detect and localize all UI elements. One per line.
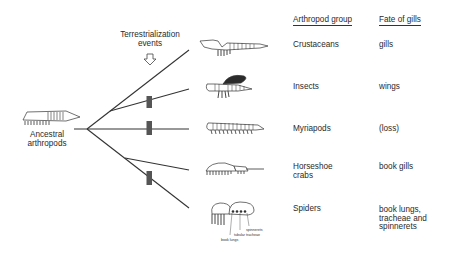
fate-insects: wings [379, 83, 400, 92]
label-book-lungs: book lungs [221, 236, 238, 245]
ancestral-arthropod-icon [23, 111, 80, 125]
terrestrialization-label: Terrestrialization events [113, 31, 187, 48]
fate-spiders-line-3: spinnerets [379, 223, 427, 232]
group-crustaceans: Crustaceans [293, 41, 339, 50]
event-label-line-2: events [113, 40, 187, 49]
branch-spiders [87, 129, 189, 208]
fate-crustaceans: gills [379, 41, 393, 50]
root-label-line-2: arthropods [17, 140, 77, 149]
horseshoe-crab-icon [206, 163, 264, 175]
fate-spiders: book lungs, tracheae and spinnerets [379, 206, 427, 232]
root-label: Ancestral arthropods [17, 131, 77, 148]
fate-horseshoe-crabs: book gills [379, 163, 413, 172]
branch-horseshoe-crabs [125, 158, 189, 170]
insect-icon [206, 75, 252, 98]
header-arthropod-group: Arthropod group [293, 15, 352, 26]
bar-insects [147, 96, 153, 108]
header-fate-of-gills: Fate of gills [379, 15, 421, 26]
group-insects: Insects [293, 83, 319, 92]
fate-myriapods: (loss) [379, 125, 399, 134]
bar-myriapods [147, 121, 153, 135]
bar-spiders [147, 171, 153, 185]
crustacean-icon [200, 40, 268, 56]
group-horseshoe-crabs: Horseshoe crabs [293, 163, 333, 180]
down-arrow-icon [144, 54, 156, 65]
terrestrialization-bars [147, 96, 153, 185]
group-horseshoe-line-2: crabs [293, 172, 333, 181]
myriapod-icon [207, 123, 264, 134]
group-spiders: Spiders [293, 205, 321, 214]
branch-crustaceans [87, 50, 189, 129]
tree-branches [74, 50, 189, 208]
group-myriapods: Myriapods [293, 125, 331, 134]
